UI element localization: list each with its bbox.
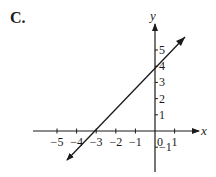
x-tick-label: −5	[51, 135, 64, 149]
coordinate-plane: x y −5−4−3−2−101−112345	[0, 0, 216, 177]
ticks: −5−4−3−2−101−112345	[51, 43, 178, 154]
y-tick-label: 5	[159, 43, 165, 57]
x-tick-label: −2	[109, 135, 122, 149]
x-tick-label: −3	[90, 135, 103, 149]
x-tick-label: −4	[70, 135, 83, 149]
x-tick-label: −1	[129, 135, 142, 149]
y-tick-label: 2	[159, 92, 165, 106]
x-axis-label: x	[200, 123, 207, 138]
y-tick-label: 1	[159, 108, 165, 122]
y-tick-label: 3	[159, 75, 165, 89]
y-tick-label: −1	[159, 140, 172, 154]
y-axis-label: y	[148, 8, 156, 23]
x-tick-label: 1	[172, 135, 178, 149]
